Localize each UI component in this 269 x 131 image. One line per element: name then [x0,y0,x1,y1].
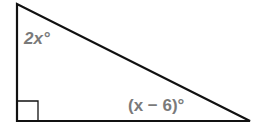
angle-label-top: 2x° [24,30,50,47]
right-angle-marker [17,101,38,121]
angle-label-bottom-right: (x − 6)° [128,97,184,114]
